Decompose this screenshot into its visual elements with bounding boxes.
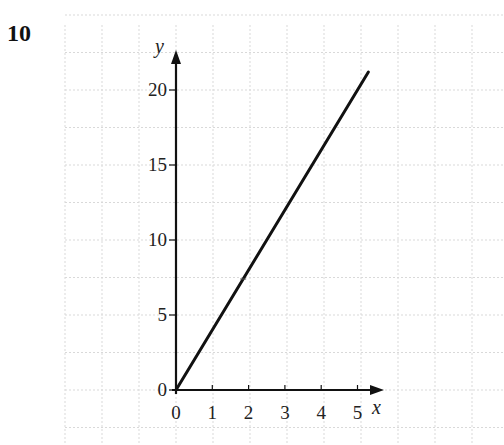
x-tick-label: 0 xyxy=(171,402,181,423)
x-tick-label: 4 xyxy=(316,402,326,423)
data-series xyxy=(176,72,368,390)
y-axis-arrow-icon xyxy=(171,50,181,64)
y-tick-label: 10 xyxy=(148,229,167,250)
y-axis: 05101520 y xyxy=(148,35,181,400)
y-axis-label: y xyxy=(153,35,164,58)
x-axis: 012345 x xyxy=(171,385,384,423)
x-tick-label: 3 xyxy=(280,402,290,423)
line-chart: 012345 x 05101520 y xyxy=(0,0,504,445)
x-axis-label: x xyxy=(371,396,381,418)
y-tick-label: 5 xyxy=(158,304,168,325)
y-tick-label: 20 xyxy=(148,79,167,100)
y-tick-label: 0 xyxy=(158,379,168,400)
x-axis-arrow-icon xyxy=(370,385,384,395)
grid xyxy=(65,15,504,445)
x-tick-label: 2 xyxy=(244,402,254,423)
x-tick-label: 5 xyxy=(353,402,363,423)
y-tick-label: 15 xyxy=(148,154,167,175)
data-line xyxy=(176,72,368,390)
x-tick-label: 1 xyxy=(208,402,218,423)
